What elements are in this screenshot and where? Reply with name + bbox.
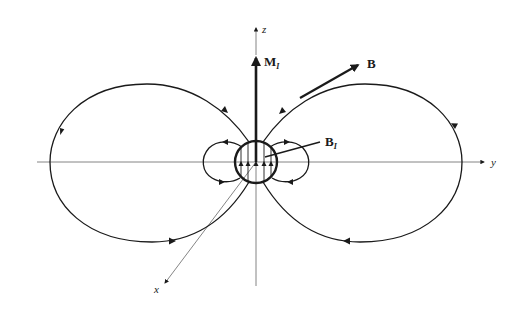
- left-outer-lobe: [50, 84, 249, 242]
- arrow-left-lobe-left: [59, 127, 65, 135]
- arrow-right-inner-top: [284, 139, 290, 145]
- y-axis-label: y: [490, 156, 496, 168]
- x-axis-label: x: [153, 283, 159, 295]
- z-axis-label: z: [261, 23, 267, 35]
- arrow-right-inner-bottom: [287, 179, 293, 185]
- internal-field-label: BI: [325, 134, 338, 151]
- dipole-field-diagram: z y x: [0, 0, 520, 312]
- arrow-left-inner-bottom: [219, 179, 225, 185]
- arrow-right-lobe-upper: [279, 107, 286, 114]
- arrow-right-lobe-bottom: [343, 238, 350, 245]
- magnetization-label: MI: [264, 54, 280, 71]
- right-outer-lobe: [263, 84, 462, 242]
- external-field-label: B: [367, 56, 376, 71]
- external-field-vector: [300, 65, 358, 98]
- arrow-left-inner-top: [222, 139, 228, 145]
- arrow-left-lobe-bottom: [169, 238, 176, 245]
- field-line-arrows: [59, 106, 458, 245]
- x-axis: [165, 162, 256, 283]
